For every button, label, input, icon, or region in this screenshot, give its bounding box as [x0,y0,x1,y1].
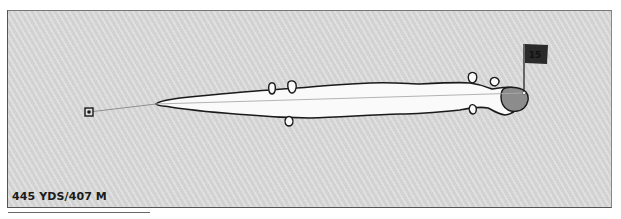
pin-icon [522,91,525,94]
fairway [156,83,521,118]
hole-diagram: 15 [0,0,621,219]
bunker [490,78,499,87]
bunker [288,81,297,93]
hole-number: 15 [529,50,542,60]
tee-marker-icon [87,110,91,114]
bunker [269,83,276,94]
bunker [468,73,477,84]
bunker [469,105,476,114]
bunker [285,117,293,127]
aim-line [89,104,156,112]
